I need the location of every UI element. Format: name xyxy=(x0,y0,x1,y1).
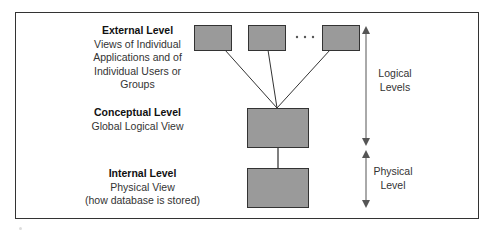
scan-artifact-dot xyxy=(19,227,22,230)
logical-levels-label: Logical Levels xyxy=(370,67,420,94)
connector-line-3 xyxy=(277,50,330,108)
physical-level-label: Physical Level xyxy=(368,165,418,192)
ellipsis-dot-1 xyxy=(296,36,298,38)
ellipsis-dot-2 xyxy=(304,36,306,38)
external-view-box-2 xyxy=(249,26,286,51)
physical-level-label-1: Physical xyxy=(368,165,418,179)
logical-levels-label-2: Levels xyxy=(370,81,420,95)
external-view-box-3 xyxy=(323,26,360,51)
logical-levels-label-1: Logical xyxy=(370,67,420,81)
diagram-graphics xyxy=(0,0,498,233)
ellipsis-dot-3 xyxy=(312,36,314,38)
conceptual-box xyxy=(248,109,309,148)
external-view-box-1 xyxy=(195,26,232,51)
physical-level-label-2: Level xyxy=(368,179,418,193)
internal-box xyxy=(248,169,309,208)
